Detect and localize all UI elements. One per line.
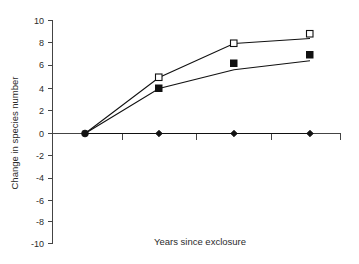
y-tick-label-neg6: -6 (36, 196, 44, 206)
markers-open-square (156, 31, 314, 81)
y-axis-title: Change in species number (9, 76, 20, 189)
y-tick-label-neg10: -10 (31, 239, 44, 249)
chart-container: 10 8 6 4 2 0 -2 -4 -6 -8 -10 (0, 0, 359, 264)
series-line-open-square (85, 39, 310, 134)
markers-origin (82, 130, 89, 137)
y-axis-ticks (48, 21, 53, 244)
y-tick-label-10: 10 (34, 16, 44, 26)
y-tick-label-neg8: -8 (36, 217, 44, 227)
y-tick-label-0: 0 (39, 129, 44, 139)
y-tick-label-neg2: -2 (36, 151, 44, 161)
line-chart: 10 8 6 4 2 0 -2 -4 -6 -8 -10 (0, 0, 359, 264)
markers-filled-square (156, 52, 314, 92)
y-tick-label-neg4: -4 (36, 173, 44, 183)
y-tick-label-2: 2 (39, 106, 44, 116)
y-tick-label-4: 4 (39, 84, 44, 94)
series-line-filled-square (85, 61, 310, 134)
y-tick-label-6: 6 (39, 60, 44, 70)
x-axis-title: Years since exclosure (154, 236, 246, 247)
y-tick-label-8: 8 (39, 38, 44, 48)
